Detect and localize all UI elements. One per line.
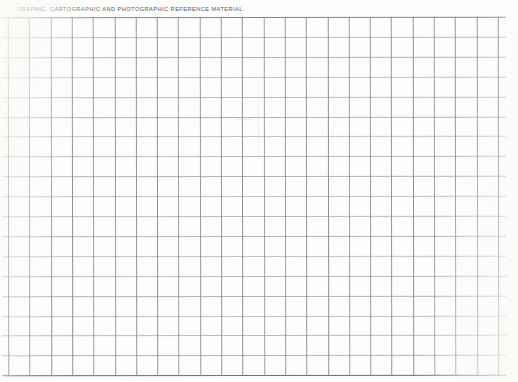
grid-row-rule bbox=[2, 17, 506, 19]
grid-row-rule bbox=[2, 276, 506, 278]
grid-row-rule bbox=[2, 156, 506, 158]
grid-row-rule bbox=[2, 37, 506, 39]
grid-row-rule bbox=[2, 355, 506, 357]
scan-stray-mark bbox=[258, 100, 259, 160]
grid-row-rule bbox=[2, 77, 506, 79]
grid-row-rule bbox=[2, 296, 506, 298]
grid-row-rule bbox=[2, 335, 506, 337]
grid-row-rule bbox=[2, 97, 506, 99]
grid-row-rule bbox=[2, 316, 506, 318]
ruled-grid-rules bbox=[0, 0, 518, 382]
grid-row-rule bbox=[2, 216, 506, 218]
grid-row-rule bbox=[2, 256, 506, 258]
grid-row-rule bbox=[2, 117, 506, 119]
ruled-grid bbox=[0, 0, 518, 382]
grid-row-rule bbox=[2, 375, 506, 377]
grid-row-rule bbox=[2, 57, 506, 59]
grid-row-rule bbox=[2, 136, 506, 138]
grid-row-rule bbox=[2, 236, 506, 238]
scanned-form-page: GRAPHIC, CARTOGRAPHIC AND PHOTOGRAPHIC R… bbox=[0, 0, 518, 382]
grid-row-rule bbox=[2, 176, 506, 178]
scan-stray-mark bbox=[237, 119, 251, 120]
grid-row-rule bbox=[2, 196, 506, 198]
header-caption: GRAPHIC, CARTOGRAPHIC AND PHOTOGRAPHIC R… bbox=[17, 5, 245, 13]
